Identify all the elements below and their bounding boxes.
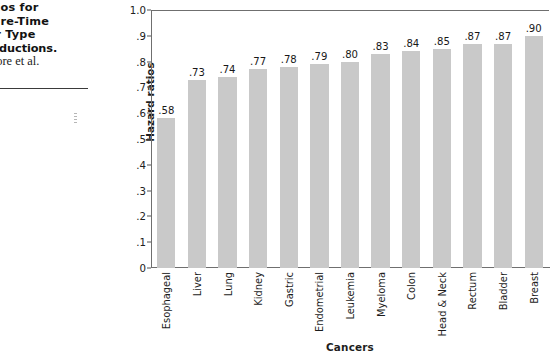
y-axis-tick-label: .3 — [136, 185, 146, 196]
figure-caption-text: rd Ratios for r Leisure-Time Cancer Type… — [0, 1, 116, 69]
bar-chart-figure: Hazard ratios 0.1.2.3.4.5.6.7.8.91.0 .58… — [122, 0, 557, 361]
bar-group[interactable]: .77 — [249, 10, 267, 268]
bar[interactable] — [188, 80, 206, 268]
y-axis-tick-label: .6 — [136, 108, 146, 119]
caption-line: Cancer Type — [0, 28, 116, 42]
x-axis-label-slot: Bladder — [488, 270, 519, 342]
x-axis-label-slot: Breast — [518, 270, 549, 342]
bar-value-label: .74 — [219, 64, 235, 75]
caption-source-line: rom Moore et al. — [0, 55, 116, 69]
bars-layer: .58.73.74.77.78.79.80.83.84.85.87.87.90 — [151, 10, 549, 268]
y-axis-tick-label: 1.0 — [130, 5, 146, 16]
y-axis-tick-label: .8 — [136, 56, 146, 67]
bar[interactable] — [494, 44, 512, 268]
x-axis-label-slot: Kidney — [243, 270, 274, 342]
bar-group[interactable]: .80 — [341, 10, 359, 268]
bar-value-label: .77 — [250, 56, 266, 67]
x-axis-category-label: Esophageal — [161, 272, 172, 329]
y-axis-tick-label: .2 — [136, 211, 146, 222]
caption-line: rd Ratios for — [0, 1, 116, 15]
bar[interactable] — [310, 64, 328, 268]
x-axis-label-slot: Colon — [396, 270, 427, 342]
bar-value-label: .80 — [342, 49, 358, 60]
bar[interactable] — [402, 51, 420, 268]
y-axis-tick-label: .7 — [136, 82, 146, 93]
bar-group[interactable]: .74 — [218, 10, 236, 268]
bar[interactable] — [157, 118, 175, 268]
bar-value-label: .73 — [189, 67, 205, 78]
x-axis-category-label: Lung — [222, 272, 233, 296]
caption-line: tisk Reductions. — [0, 42, 116, 56]
bar[interactable] — [280, 67, 298, 268]
bar-group[interactable]: .87 — [463, 10, 481, 268]
bar-group[interactable]: .73 — [188, 10, 206, 268]
scan-artifact-mark — [74, 113, 77, 125]
x-axis-label-slot: Head & Neck — [427, 270, 458, 342]
x-axis-category-label: Breast — [528, 272, 539, 304]
x-axis-label-slot: Esophageal — [151, 270, 182, 342]
bar-value-label: .79 — [311, 51, 327, 62]
caption-line: r Leisure-Time — [0, 15, 116, 29]
y-axis-tick-label: .1 — [136, 237, 146, 248]
x-axis-category-label: Colon — [406, 272, 417, 300]
x-axis-category-label: Myeloma — [375, 272, 386, 317]
bar[interactable] — [249, 69, 267, 268]
bar[interactable] — [433, 49, 451, 268]
x-axis-category-label: Liver — [191, 272, 202, 296]
x-axis-category-labels: EsophagealLiverLungKidneyGastricEndometr… — [151, 270, 549, 342]
y-axis-tick-label: 0 — [140, 263, 146, 274]
x-axis-title: Cancers — [151, 341, 549, 353]
bar-value-label: .83 — [373, 41, 389, 52]
bar-group[interactable]: .90 — [525, 10, 543, 268]
bar[interactable] — [341, 62, 359, 268]
bar-value-label: .90 — [526, 23, 542, 34]
x-axis-label-slot: Lung — [212, 270, 243, 342]
bar[interactable] — [525, 36, 543, 268]
bar-value-label: .87 — [495, 31, 511, 42]
y-axis-tick-label: .4 — [136, 159, 146, 170]
bar-group[interactable]: .79 — [310, 10, 328, 268]
x-axis-category-label: Endometrial — [314, 272, 325, 332]
y-axis-tick-label: .9 — [136, 30, 146, 41]
bar-value-label: .58 — [158, 105, 174, 116]
x-axis-label-slot: Rectum — [457, 270, 488, 342]
bar-group[interactable]: .78 — [280, 10, 298, 268]
bar[interactable] — [463, 44, 481, 268]
bar-group[interactable]: .87 — [494, 10, 512, 268]
bar[interactable] — [371, 54, 389, 268]
x-axis-label-slot: Myeloma — [365, 270, 396, 342]
x-axis-label-slot: Leukemia — [335, 270, 366, 342]
bar-value-label: .78 — [281, 54, 297, 65]
x-axis-label-slot: Endometrial — [304, 270, 335, 342]
x-axis-category-label: Head & Neck — [436, 272, 447, 336]
x-axis-category-label: Gastric — [283, 272, 294, 307]
x-axis-category-label: Bladder — [498, 272, 509, 310]
x-axis-label-slot: Gastric — [273, 270, 304, 342]
caption-divider-rule — [0, 88, 88, 89]
y-axis-tick-label: .5 — [136, 134, 146, 145]
bar[interactable] — [218, 77, 236, 268]
x-axis-category-label: Rectum — [467, 272, 478, 310]
bar-group[interactable]: .83 — [371, 10, 389, 268]
bar-group[interactable]: .58 — [157, 10, 175, 268]
x-axis-label-slot: Liver — [182, 270, 213, 342]
figure-caption-block: rd Ratios for r Leisure-Time Cancer Type… — [0, 0, 122, 110]
bar-value-label: .85 — [434, 36, 450, 47]
bar-group[interactable]: .84 — [402, 10, 420, 268]
y-axis-tick-labels: 0.1.2.3.4.5.6.7.8.91.0 — [122, 10, 151, 268]
x-axis-category-label: Leukemia — [344, 272, 355, 320]
bar-value-label: .84 — [403, 38, 419, 49]
bar-group[interactable]: .85 — [433, 10, 451, 268]
x-axis-category-label: Kidney — [253, 272, 264, 306]
bar-value-label: .87 — [464, 31, 480, 42]
